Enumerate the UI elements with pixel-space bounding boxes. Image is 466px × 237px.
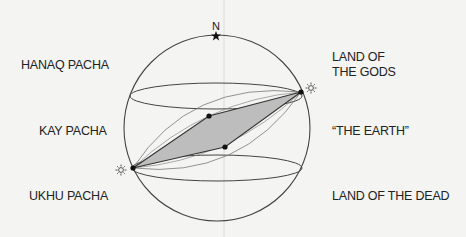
label-kay-pacha: KAY PACHA xyxy=(39,124,107,139)
label-land-of-the-dead: LAND OF THE DEAD xyxy=(332,189,449,204)
point-lower xyxy=(222,144,227,149)
point-upper xyxy=(206,113,211,118)
label-the-earth: “THE EARTH” xyxy=(332,124,409,139)
north-label: N xyxy=(212,19,220,34)
sun-icon-right xyxy=(306,83,317,94)
label-land-of-the-gods-line2: THE GODS xyxy=(332,65,396,80)
label-hanaq-pacha: HANAQ PACHA xyxy=(21,58,109,73)
point-right xyxy=(298,89,303,94)
label-land-of-the-gods-line1: LAND OF xyxy=(332,50,385,65)
earth-plane xyxy=(133,92,301,168)
label-ukhu-pacha: UKHU PACHA xyxy=(29,189,108,204)
point-left xyxy=(130,165,135,170)
sun-icon-left xyxy=(116,165,127,176)
